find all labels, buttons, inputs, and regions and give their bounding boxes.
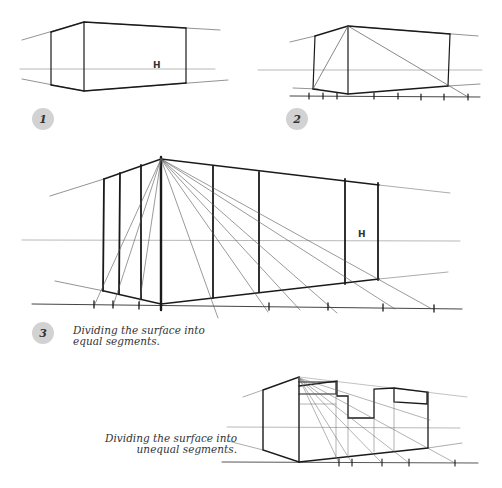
caption-unequal-segments: Dividing the surface into unequal segmen… bbox=[85, 433, 237, 455]
caption-line-2: unequal segments. bbox=[85, 444, 237, 455]
perspective-drawings bbox=[0, 0, 502, 488]
figure-2-drawing bbox=[258, 26, 482, 100]
figure-1-drawing bbox=[20, 22, 228, 91]
figure-3-drawing bbox=[22, 157, 462, 318]
figure-number-badge-1: 1 bbox=[32, 108, 54, 130]
figure-4-drawing bbox=[222, 377, 478, 466]
caption-line-2: equal segments. bbox=[73, 336, 205, 347]
figure-number-badge-2: 2 bbox=[286, 108, 308, 130]
caption-equal-segments: Dividing the surface into equal segments… bbox=[73, 325, 205, 347]
horizon-label-fig1: H bbox=[153, 60, 161, 70]
horizon-label-fig3: H bbox=[358, 229, 366, 239]
figure-number-badge-3: 3 bbox=[32, 322, 54, 344]
